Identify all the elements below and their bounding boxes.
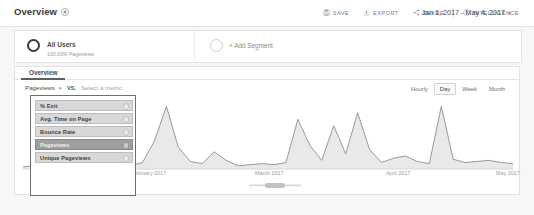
add-segment-label: + Add Segment bbox=[229, 42, 273, 49]
info-circle-icon[interactable] bbox=[123, 142, 130, 149]
granularity-month[interactable]: Month bbox=[483, 83, 511, 95]
chevron-down-icon: ▾ bbox=[59, 85, 62, 91]
metric-option-label: Pageviews bbox=[40, 142, 70, 148]
share-nodes-icon bbox=[413, 9, 420, 16]
x-axis-tick-1: March 2017 bbox=[255, 170, 283, 176]
tab-strip: Overview bbox=[14, 66, 520, 80]
title-group: Overview bbox=[14, 6, 69, 17]
metric-option-percent-exit[interactable]: % Exit bbox=[35, 100, 133, 111]
x-axis-tick-3: May 2017 bbox=[496, 170, 520, 176]
metric-dropdown-list: % Exit Avg. Time on Page Bounce Rate Pag… bbox=[35, 100, 133, 165]
secondary-metric-selector[interactable]: Select a metric bbox=[81, 84, 122, 91]
analytics-page: Overview SAVE bbox=[0, 0, 534, 215]
segment-bar: All Users 100.00% Pageviews + Add Segmen… bbox=[14, 30, 522, 63]
save-button[interactable]: SAVE bbox=[316, 7, 356, 18]
chevron-down-icon: ▾ bbox=[508, 10, 511, 16]
date-range-picker[interactable]: Jan 1, 2017 - May 4, 2017▾ bbox=[421, 8, 511, 17]
primary-metric-label: Pageviews bbox=[25, 84, 55, 91]
info-circle-icon[interactable] bbox=[123, 103, 130, 110]
granularity-day[interactable]: Day bbox=[434, 83, 456, 95]
metric-option-label: Avg. Time on Page bbox=[40, 116, 91, 122]
granularity-controls: Hourly Day Week Month bbox=[405, 83, 511, 95]
granularity-week[interactable]: Week bbox=[456, 83, 483, 95]
page-title: Overview bbox=[14, 6, 57, 17]
save-disk-icon bbox=[323, 9, 330, 16]
segment-texts: All Users 100.00% Pageviews bbox=[47, 33, 94, 58]
info-circle-icon[interactable] bbox=[123, 129, 130, 136]
export-label: EXPORT bbox=[373, 10, 399, 16]
info-circle-icon[interactable] bbox=[123, 116, 130, 123]
chart-scroll-handle[interactable] bbox=[249, 183, 301, 188]
primary-metric-selector[interactable]: Pageviews ▾ bbox=[25, 84, 62, 91]
export-download-icon bbox=[363, 9, 370, 16]
metric-option-pageviews[interactable]: Pageviews bbox=[35, 139, 133, 150]
date-range-value: Jan 1, 2017 - May 4, 2017 bbox=[421, 8, 505, 17]
tab-overview-label: Overview bbox=[29, 69, 57, 76]
add-segment-button[interactable]: + Add Segment bbox=[210, 39, 273, 52]
vs-label: VS. bbox=[67, 85, 76, 91]
tab-overview[interactable]: Overview bbox=[21, 67, 65, 80]
metric-option-avg-time-on-page[interactable]: Avg. Time on Page bbox=[35, 113, 133, 124]
info-circle-icon[interactable] bbox=[123, 155, 130, 162]
segment-all-users[interactable]: All Users 100.00% Pageviews bbox=[15, 31, 195, 60]
metric-option-bounce-rate[interactable]: Bounce Rate bbox=[35, 126, 133, 137]
metric-option-label: % Exit bbox=[40, 103, 57, 109]
metric-dropdown-panel: % Exit Avg. Time on Page Bounce Rate Pag… bbox=[30, 95, 136, 196]
metric-option-unique-pageviews[interactable]: Unique Pageviews bbox=[35, 152, 133, 163]
metric-option-label: Bounce Rate bbox=[40, 129, 75, 135]
segment-circle-icon bbox=[27, 39, 40, 52]
x-axis-tick-2: April 2017 bbox=[386, 170, 410, 176]
metric-option-label: Unique Pageviews bbox=[40, 155, 91, 161]
segment-name: All Users bbox=[47, 41, 76, 48]
granularity-hourly[interactable]: Hourly bbox=[405, 83, 434, 95]
segment-sub: 100.00% Pageviews bbox=[47, 52, 94, 58]
metric-row: Pageviews ▾ VS. Select a metric bbox=[25, 84, 122, 91]
add-segment-circle-icon bbox=[210, 39, 223, 52]
x-axis-tick-0: February 2017 bbox=[131, 170, 166, 176]
export-button[interactable]: EXPORT bbox=[356, 7, 406, 18]
save-label: SAVE bbox=[333, 10, 349, 16]
shortcut-badge-icon[interactable] bbox=[61, 8, 69, 16]
